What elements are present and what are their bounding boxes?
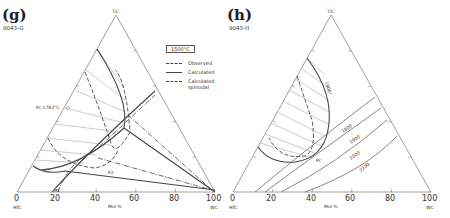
tick-60: 60 [129,194,139,203]
pc-annotation: Pc,1783°C [36,105,59,110]
contour-label: 2000 [349,150,361,161]
contour-label: 1900 [349,134,361,145]
calculated-line-icon [166,72,182,73]
tick-40: 40 [90,194,100,203]
tick-20: 20 [50,194,60,203]
vertex-hfc: HfC [229,205,237,210]
tick-0: 0 [230,194,235,203]
vertex-hfc: HfC [13,205,21,210]
tick-20: 20 [266,194,276,203]
tick-100: 100 [206,194,221,203]
spinodal-line-icon [166,81,182,82]
legend: 1500°C Observed Calculated Calculated sp… [166,45,220,90]
tick-80: 80 [385,194,395,203]
ternary-diagram-h: 1800 1900 2000 2200 1800° Pc 0 20 40 60 … [225,0,450,218]
tick-60: 60 [345,194,355,203]
legend-observed: Observed [166,60,220,66]
legend-spinodal: Calculated spinodal [166,78,220,90]
axis-label: Mol % [324,204,338,209]
tick-40: 40 [306,194,316,203]
p1-label: P1 [54,188,60,193]
panel-g: (g) 9043-G [0,0,225,218]
p2-label: P2 [108,170,114,175]
axis-label: Mol % [108,204,122,209]
vertex-tic: TiC [326,9,334,14]
pc-label: Pc [316,158,322,163]
vertex-wc: WC [210,205,218,210]
legend-temperature: 1500°C [166,45,195,53]
contour-label: 2200 [358,161,370,172]
legend-calculated: Calculated [166,69,220,75]
vertex-wc: WC [426,205,434,210]
tick-80: 80 [169,194,179,203]
ternary-diagram-g: 0 20 40 60 80 100 HfC WC TiC Mol % Pc,17… [0,0,225,218]
panel-h: (h) 9043-H [225,0,450,218]
observed-line-icon [166,63,182,64]
tick-0: 0 [14,194,19,203]
isotherm-label: 1800° [324,81,332,96]
vertex-tic: TiC [111,9,119,14]
tick-100: 100 [422,194,437,203]
